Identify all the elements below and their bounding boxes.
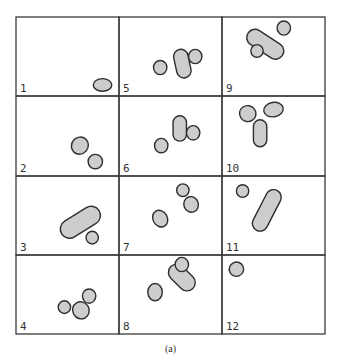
panel-label: 5 bbox=[123, 82, 130, 95]
particle-blob bbox=[88, 154, 102, 168]
panel-9: 9 bbox=[222, 17, 325, 96]
panel-7: 7 bbox=[119, 176, 222, 255]
particle-blob bbox=[82, 289, 95, 303]
particle-blob bbox=[177, 184, 189, 197]
panel-border bbox=[119, 17, 222, 96]
panel-label: 7 bbox=[123, 241, 130, 254]
panel-label: 12 bbox=[226, 320, 239, 333]
particle-blob bbox=[253, 120, 266, 147]
panel-2: 2 bbox=[16, 96, 119, 176]
particle-blob bbox=[154, 60, 167, 74]
panel-label: 1 bbox=[20, 82, 27, 95]
particle-blob bbox=[277, 21, 290, 35]
panel-label: 6 bbox=[123, 162, 130, 175]
panel-label: 10 bbox=[226, 162, 239, 175]
panel-border bbox=[119, 96, 222, 176]
particle-blob bbox=[150, 208, 171, 230]
figure-grid: 123456789101112 bbox=[0, 0, 341, 360]
particle-blob bbox=[263, 101, 285, 119]
particle-blob bbox=[227, 260, 246, 279]
panel-label: 3 bbox=[20, 241, 27, 254]
particle-blob bbox=[58, 301, 70, 314]
panel-label: 2 bbox=[20, 162, 27, 175]
panel-6: 6 bbox=[119, 96, 222, 176]
particle-blob bbox=[189, 49, 202, 63]
figure-caption: (a) bbox=[0, 343, 341, 354]
panel-label: 9 bbox=[226, 82, 233, 95]
particle-blob bbox=[86, 231, 98, 244]
particle-blob bbox=[155, 138, 168, 152]
particle-blob bbox=[173, 116, 186, 141]
particle-blob bbox=[186, 126, 199, 140]
panel-border bbox=[16, 255, 119, 334]
particle-blob bbox=[252, 190, 281, 232]
panel-11: 11 bbox=[222, 176, 325, 255]
panel-border bbox=[119, 176, 222, 255]
panel-border bbox=[16, 176, 119, 255]
particle-blob bbox=[251, 45, 263, 58]
panel-12: 12 bbox=[222, 255, 325, 334]
particle-blob bbox=[93, 79, 112, 92]
panel-label: 11 bbox=[226, 241, 239, 254]
particle-blob bbox=[148, 283, 162, 300]
panel-5: 5 bbox=[119, 17, 222, 96]
panel-8: 8 bbox=[119, 255, 222, 334]
particle-blob bbox=[182, 195, 201, 215]
panel-10: 10 bbox=[222, 96, 325, 176]
particle-blob bbox=[236, 185, 248, 198]
particle-blob bbox=[68, 134, 92, 158]
panel-1: 1 bbox=[16, 17, 119, 96]
particle-blob bbox=[238, 104, 257, 123]
panel-4: 4 bbox=[16, 255, 119, 334]
particle-blob bbox=[175, 257, 188, 271]
panel-3: 3 bbox=[16, 176, 119, 255]
panel-label: 4 bbox=[20, 320, 27, 333]
panel-label: 8 bbox=[123, 320, 130, 333]
panel-border bbox=[16, 96, 119, 176]
